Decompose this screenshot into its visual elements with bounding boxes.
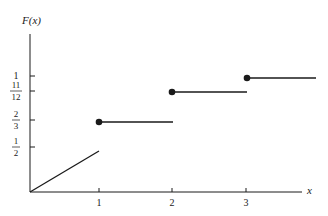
y-axis-label: F(x) <box>21 14 41 27</box>
x-tick-label-2: 2 <box>170 197 175 208</box>
closed-dot-1 <box>96 119 103 126</box>
y-tick-label-1-2-num: 1 <box>14 136 19 146</box>
y-tick-label-11-12-den: 12 <box>12 92 21 102</box>
y-tick-label-2-3-den: 3 <box>14 121 19 131</box>
closed-dot-3 <box>244 75 251 82</box>
ramp-segment <box>30 151 99 192</box>
y-tick-label-11-12-num: 11 <box>12 80 21 90</box>
y-tick-label-2-3-num: 2 <box>14 109 19 119</box>
x-tick-label-1: 1 <box>97 197 102 208</box>
y-tick-label-1-2-den: 2 <box>14 148 19 158</box>
cdf-chart: F(x) x 1 11 12 2 3 1 2 1 2 3 <box>0 0 328 216</box>
x-tick-label-3: 3 <box>244 197 249 208</box>
x-axis-label: x <box>306 184 312 196</box>
closed-dot-2 <box>169 89 176 96</box>
